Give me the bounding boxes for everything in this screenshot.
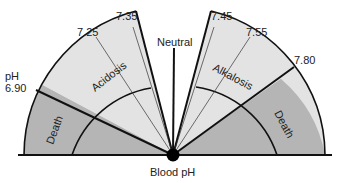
tick-label-735: 7.35 [116,10,137,22]
tick-label-755: 7.55 [246,26,267,38]
tick-label-725: 7.25 [77,26,98,38]
ph-label: pH [5,70,19,82]
tick-label-690: 6.90 [5,82,26,94]
pivot-dot [167,149,180,162]
tick-label-745: 7.45 [211,10,232,22]
blood-ph-title: Blood pH [150,166,195,178]
neutral-line [173,48,174,155]
tick-label-780: 7.80 [294,54,315,66]
blood-ph-diagram: pH 6.90 7.25 7.35 Neutral 7.45 7.55 7.80… [0,0,341,183]
neutral-label: Neutral [157,36,192,48]
